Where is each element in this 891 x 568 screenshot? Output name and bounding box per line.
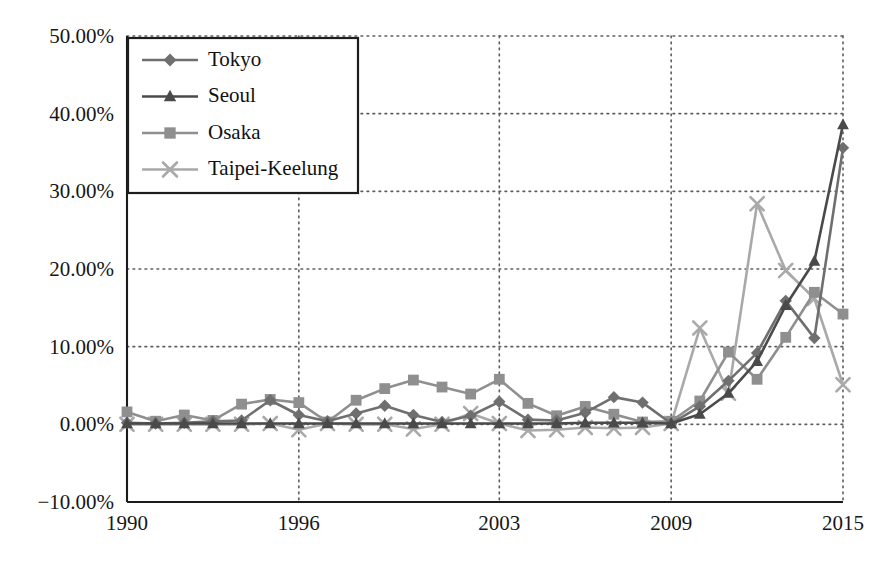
- series-line: [127, 204, 843, 431]
- data-point-marker-square: [780, 332, 791, 343]
- x-axis-tick-label: 2003: [478, 511, 520, 535]
- data-point-marker-square: [723, 347, 734, 358]
- y-axis-tick-label: 20.00%: [49, 257, 114, 281]
- x-axis-tick-label: 2009: [650, 511, 692, 535]
- legend-label: Seoul: [208, 83, 256, 107]
- data-point-marker-x: [693, 321, 706, 334]
- series-line: [127, 292, 843, 422]
- y-axis-tick-label: 40.00%: [49, 102, 114, 126]
- series-taipei-keelung: [120, 197, 849, 437]
- x-axis-tick-label: 2015: [822, 511, 864, 535]
- data-point-marker-square: [236, 399, 247, 410]
- line-chart-figure: 50.00%40.00%30.00%20.00%10.00%0.00%−10.0…: [0, 0, 891, 568]
- data-point-marker-square: [379, 383, 390, 394]
- y-axis-tick-label: 10.00%: [49, 335, 114, 359]
- y-axis-tick-label: 30.00%: [49, 179, 114, 203]
- data-point-marker-diamond: [379, 399, 391, 411]
- y-axis-tick-label: −10.00%: [37, 490, 114, 514]
- data-point-marker-square: [838, 309, 849, 320]
- y-axis-tick-label: 0.00%: [60, 412, 114, 436]
- y-axis-tick-label: 50.00%: [49, 24, 114, 48]
- data-point-marker-square: [293, 397, 304, 408]
- legend-label: Osaka: [208, 120, 261, 144]
- data-point-marker-square: [164, 127, 175, 138]
- data-point-marker-square: [437, 382, 448, 393]
- data-point-marker-square: [122, 407, 133, 418]
- data-point-marker-square: [465, 389, 476, 400]
- data-point-marker-square: [351, 395, 362, 406]
- x-axis-tick-labels: 19901996200320092015: [106, 511, 864, 535]
- data-point-marker-diamond: [608, 391, 620, 403]
- data-point-marker-diamond: [493, 396, 505, 408]
- data-point-marker-triangle: [837, 118, 849, 129]
- data-point-marker-x: [779, 264, 792, 277]
- x-axis-tick-label: 1990: [106, 511, 148, 535]
- data-point-marker-square: [408, 375, 419, 386]
- data-point-marker-square: [494, 374, 505, 385]
- y-axis-tick-labels: 50.00%40.00%30.00%20.00%10.00%0.00%−10.0…: [37, 24, 114, 514]
- legend-label: Tokyo: [208, 47, 261, 71]
- x-axis-tick-label: 1996: [278, 511, 320, 535]
- series-osaka: [122, 287, 849, 428]
- chart-legend: TokyoSeoulOsakaTaipei-Keelung: [128, 38, 358, 193]
- legend-label: Taipei-Keelung: [208, 156, 339, 180]
- data-point-marker-triangle: [808, 255, 820, 266]
- chart-canvas: 50.00%40.00%30.00%20.00%10.00%0.00%−10.0…: [0, 0, 891, 568]
- data-point-marker-square: [809, 287, 820, 298]
- data-point-marker-square: [523, 398, 534, 409]
- data-point-marker-square: [752, 374, 763, 385]
